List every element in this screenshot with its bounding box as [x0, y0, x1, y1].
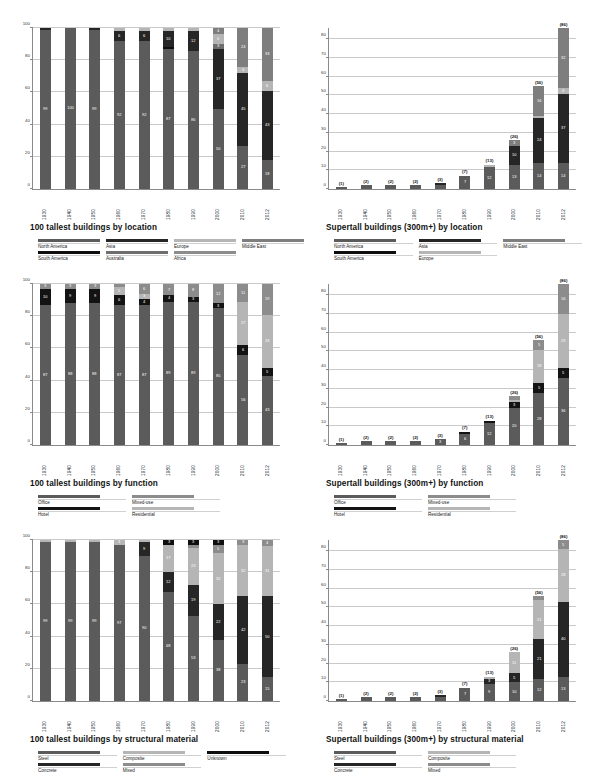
bar-segment[interactable]: 37 [558, 94, 569, 163]
bar-segment[interactable]: 3 [558, 88, 569, 94]
bar-segment[interactable]: 68 [163, 592, 174, 701]
stacked-bar[interactable]: 1843633 [262, 28, 273, 189]
legend-item[interactable]: Steel [334, 751, 422, 761]
stacked-bar[interactable]: 6(7) [459, 432, 470, 445]
bar-segment[interactable]: 3 [509, 402, 520, 408]
bar-segment[interactable]: 99 [89, 542, 100, 701]
bar-segment[interactable]: 4 [237, 67, 248, 73]
bar-segment[interactable]: 13 [509, 165, 520, 189]
legend-item[interactable]: Europe [174, 239, 236, 249]
bar-segment[interactable]: 90 [139, 556, 150, 701]
stacked-bar[interactable]: (1) [336, 699, 347, 701]
bar-segment[interactable]: 5 [213, 545, 224, 553]
bar-segment[interactable]: 4 [213, 28, 224, 34]
bar-segment[interactable]: 21 [533, 600, 544, 639]
stacked-bar[interactable]: 142416(56) [533, 86, 544, 189]
stacked-bar[interactable]: 8893 [89, 284, 100, 445]
bar-segment[interactable] [509, 400, 520, 402]
bar-segment[interactable]: 3 [40, 284, 51, 289]
bar-segment[interactable]: 9 [89, 289, 100, 303]
stacked-bar[interactable]: 909 [139, 540, 150, 701]
bar-segment[interactable] [509, 396, 520, 400]
bar-segment[interactable] [139, 540, 150, 542]
bar-segment[interactable]: 24 [237, 28, 248, 67]
stacked-bar[interactable]: (2) [410, 697, 421, 701]
bar-segment[interactable] [336, 187, 347, 189]
stacked-bar[interactable]: (3) [435, 183, 446, 189]
bar-segment[interactable] [410, 185, 421, 189]
stacked-bar[interactable]: 12(13) [484, 421, 495, 445]
bar-segment[interactable]: 6 [237, 345, 248, 355]
bar-segment[interactable]: 10 [163, 31, 174, 47]
bar-segment[interactable]: 6 [213, 34, 224, 44]
bar-segment[interactable] [114, 284, 125, 287]
bar-segment[interactable]: 45 [237, 73, 248, 145]
bar-segment[interactable] [336, 443, 347, 445]
bar-segment[interactable] [435, 697, 446, 701]
bar-segment[interactable]: 5 [533, 340, 544, 349]
bar-segment[interactable]: 88 [65, 303, 76, 445]
bar-segment[interactable]: 97 [114, 545, 125, 701]
bar-segment[interactable]: 99 [40, 30, 51, 189]
bar-segment[interactable]: 33 [262, 315, 273, 368]
bar-segment[interactable]: 87 [40, 305, 51, 445]
legend-item[interactable]: Office [334, 495, 422, 505]
bar-segment[interactable]: 92 [139, 41, 150, 189]
stacked-bar[interactable]: 5037364 [213, 28, 224, 189]
bar-segment[interactable]: 10 [40, 289, 51, 305]
bar-segment[interactable]: 6 [114, 31, 125, 41]
bar-segment[interactable]: 3 [213, 540, 224, 545]
bar-segment[interactable]: 17 [163, 545, 174, 572]
stacked-bar[interactable]: 2342323 [237, 540, 248, 701]
bar-segment[interactable]: 6 [114, 295, 125, 305]
bar-segment[interactable] [40, 28, 51, 30]
bar-segment[interactable]: 5 [262, 368, 273, 376]
bar-segment[interactable] [484, 421, 495, 423]
legend-item[interactable]: North America [334, 239, 413, 249]
stacked-bar[interactable]: 2745424 [237, 28, 248, 189]
stacked-bar[interactable]: 285185(56) [533, 340, 544, 445]
bar-segment[interactable]: 18 [262, 160, 273, 189]
bar-segment[interactable]: 19 [262, 284, 273, 315]
bar-segment[interactable]: 6 [139, 31, 150, 41]
stacked-bar[interactable]: 7(7) [459, 688, 470, 701]
stacked-bar[interactable]: (1) [336, 443, 347, 445]
bar-segment[interactable]: 5 [114, 287, 125, 295]
stacked-bar[interactable]: 93(13) [484, 677, 495, 701]
bar-segment[interactable]: 87 [163, 49, 174, 189]
bar-segment[interactable] [188, 28, 199, 31]
legend-item[interactable]: Mixed-use [428, 495, 516, 505]
bar-segment[interactable]: 5 [558, 368, 569, 377]
bar-segment[interactable]: 37 [213, 49, 224, 109]
bar-segment[interactable]: 6 [139, 284, 150, 294]
stacked-bar[interactable]: 1550314 [262, 540, 273, 701]
bar-segment[interactable]: 16 [558, 284, 569, 314]
bar-segment[interactable] [188, 545, 199, 548]
bar-segment[interactable]: 7 [459, 688, 470, 701]
bar-segment[interactable]: 92 [114, 41, 125, 189]
bar-segment[interactable]: 4 [163, 295, 174, 301]
bar-segment[interactable]: 99 [40, 542, 51, 701]
stacked-bar[interactable]: 8710 [163, 28, 174, 189]
bar-segment[interactable]: 3 [188, 297, 199, 302]
bar-segment[interactable]: 36 [558, 378, 569, 445]
bar-segment[interactable]: 5 [509, 673, 520, 682]
bar-segment[interactable]: 89 [188, 302, 199, 445]
bar-segment[interactable]: 3 [213, 303, 224, 308]
bar-segment[interactable] [361, 697, 372, 701]
stacked-bar[interactable]: 973 [114, 540, 125, 701]
bar-segment[interactable] [410, 441, 421, 445]
bar-segment[interactable]: 14 [558, 163, 569, 189]
legend-item[interactable]: Composite [123, 751, 202, 761]
legend-item[interactable]: Office [38, 495, 126, 505]
bar-segment[interactable]: 3 [188, 540, 199, 545]
bar-segment[interactable]: 99 [89, 30, 100, 189]
bar-segment[interactable] [89, 28, 100, 30]
bar-segment[interactable]: 3 [237, 540, 248, 545]
bar-segment[interactable]: 9 [484, 684, 495, 701]
bar-segment[interactable]: 12 [163, 572, 174, 591]
stacked-bar[interactable]: 926 [139, 28, 150, 189]
bar-segment[interactable]: 56 [237, 355, 248, 445]
stacked-bar[interactable]: 6812173 [163, 540, 174, 701]
bar-segment[interactable]: 3 [114, 540, 125, 545]
